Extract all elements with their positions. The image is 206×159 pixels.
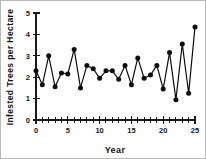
y-tick-label: 0 bbox=[26, 116, 30, 125]
data-series-group bbox=[34, 24, 198, 102]
series-markers bbox=[34, 24, 198, 102]
data-point bbox=[97, 76, 102, 81]
x-axis-title: Year bbox=[105, 145, 126, 155]
data-point bbox=[103, 68, 108, 73]
y-axis-title: Infested Trees per Hectare bbox=[5, 9, 15, 126]
data-point bbox=[53, 84, 58, 89]
chart-figure: 012345 0510152025 Year Infested Trees pe… bbox=[0, 0, 206, 159]
line-chart-svg: 012345 0510152025 Year Infested Trees pe… bbox=[1, 1, 206, 159]
data-point bbox=[154, 63, 159, 68]
data-point bbox=[135, 55, 140, 60]
x-tick-label: 5 bbox=[66, 126, 70, 135]
data-point bbox=[72, 47, 77, 52]
x-axis-tick-labels: 0510152025 bbox=[34, 126, 199, 135]
y-tick-label: 4 bbox=[26, 30, 31, 39]
y-tick-label: 5 bbox=[26, 9, 30, 18]
data-point bbox=[40, 82, 45, 87]
data-point bbox=[148, 73, 153, 78]
data-point bbox=[110, 68, 115, 73]
data-point bbox=[116, 77, 121, 82]
x-axis-group: 0510152025 bbox=[34, 116, 199, 135]
x-tick-label: 0 bbox=[34, 126, 38, 135]
data-point bbox=[84, 63, 89, 68]
y-axis-group: 012345 bbox=[26, 9, 40, 125]
series-line-path bbox=[36, 27, 195, 100]
data-point bbox=[161, 86, 166, 91]
data-point bbox=[65, 71, 70, 76]
x-tick-label: 25 bbox=[191, 126, 199, 135]
data-point bbox=[46, 53, 51, 58]
data-point bbox=[167, 50, 172, 55]
data-point bbox=[193, 24, 198, 29]
data-point bbox=[34, 68, 39, 73]
y-tick-label: 3 bbox=[26, 52, 30, 61]
y-axis-tick-labels: 012345 bbox=[26, 9, 31, 125]
y-tick-label: 2 bbox=[26, 73, 30, 82]
x-tick-label: 15 bbox=[127, 126, 135, 135]
data-point bbox=[59, 70, 64, 75]
data-point bbox=[186, 91, 191, 96]
data-point bbox=[142, 76, 147, 81]
y-tick-label: 1 bbox=[26, 94, 30, 103]
data-point bbox=[129, 82, 134, 87]
data-point bbox=[123, 63, 128, 68]
data-point bbox=[78, 85, 83, 90]
data-point bbox=[91, 66, 96, 71]
x-tick-label: 10 bbox=[95, 126, 103, 135]
data-point bbox=[173, 97, 178, 102]
x-tick-label: 20 bbox=[159, 126, 167, 135]
data-point bbox=[180, 42, 185, 47]
